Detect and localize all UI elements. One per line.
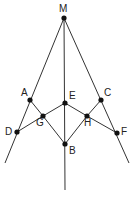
point-E — [62, 100, 67, 105]
segment-A-G — [30, 100, 43, 116]
segment-M-LEFT_END — [5, 18, 64, 163]
segment-G-B — [43, 116, 65, 144]
segment-C-H — [87, 100, 101, 116]
point-label-E: E — [69, 91, 76, 101]
point-D — [14, 129, 19, 134]
point-M — [61, 15, 66, 20]
point-label-A: A — [21, 88, 28, 98]
geometry-diagram: MACEGHDFB — [0, 0, 131, 197]
point-A — [27, 97, 32, 102]
point-label-C: C — [104, 88, 111, 98]
segment-E-H — [65, 103, 87, 116]
point-label-M: M — [59, 4, 67, 14]
segment-H-F — [87, 116, 117, 133]
point-label-B: B — [69, 146, 76, 156]
point-label-H: H — [84, 118, 91, 128]
point-label-D: D — [5, 127, 12, 137]
point-F — [114, 130, 119, 135]
point-B — [62, 141, 67, 146]
point-C — [98, 97, 103, 102]
point-label-F: F — [121, 127, 127, 137]
point-label-G: G — [36, 118, 44, 128]
segment-G-E — [43, 103, 65, 116]
diagram-lines — [0, 0, 131, 197]
